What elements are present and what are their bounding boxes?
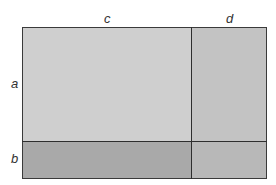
label-a: a bbox=[11, 77, 18, 90]
label-c: c bbox=[104, 12, 111, 25]
horizontal-divider bbox=[22, 141, 267, 142]
outer-rectangle-border bbox=[22, 27, 267, 179]
vertical-divider bbox=[191, 27, 192, 179]
label-b: b bbox=[11, 152, 18, 165]
label-d: d bbox=[226, 12, 233, 25]
